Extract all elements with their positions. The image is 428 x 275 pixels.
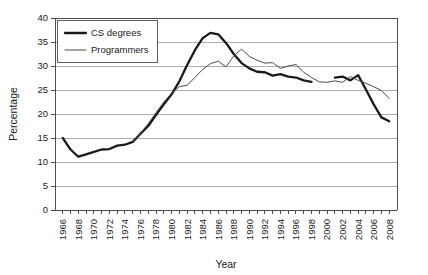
- x-tick-label-1990: 1990: [244, 219, 255, 240]
- y-tick-marks: [51, 18, 55, 210]
- x-tick-label-1986: 1986: [213, 219, 224, 240]
- y-tick-labels: 0510152025303540: [37, 12, 48, 215]
- x-tick-marks: [63, 210, 389, 214]
- x-tick-label-1988: 1988: [228, 219, 239, 240]
- x-tick-label-2000: 2000: [321, 219, 332, 240]
- x-tick-label-2004: 2004: [353, 219, 364, 240]
- x-tick-label-1982: 1982: [182, 219, 193, 240]
- y-tick-label-25: 25: [37, 84, 48, 95]
- legend-box: [57, 20, 157, 62]
- y-tick-label-5: 5: [43, 180, 48, 191]
- x-tick-label-1984: 1984: [197, 219, 208, 240]
- x-tick-label-1998: 1998: [306, 219, 317, 240]
- y-tick-label-20: 20: [37, 108, 48, 119]
- chart-legend: CS degreesProgrammers: [57, 20, 157, 62]
- y-tick-label-35: 35: [37, 36, 48, 47]
- line-chart: 1966196819701972197419761978198019821984…: [0, 0, 428, 275]
- x-tick-label-1976: 1976: [135, 219, 146, 240]
- x-tick-label-1974: 1974: [119, 219, 130, 240]
- x-tick-label-1992: 1992: [259, 219, 270, 240]
- y-axis-title: Percentage: [7, 87, 19, 141]
- x-axis-title: Year: [215, 258, 237, 270]
- y-tick-label-10: 10: [37, 156, 48, 167]
- x-tick-labels: 1966196819701972197419761978198019821984…: [57, 219, 394, 240]
- legend-label-0: CS degrees: [91, 27, 141, 38]
- x-tick-label-1972: 1972: [104, 219, 115, 240]
- x-tick-label-1966: 1966: [57, 219, 68, 240]
- x-tick-label-2008: 2008: [384, 219, 395, 240]
- x-tick-label-1996: 1996: [290, 219, 301, 240]
- x-tick-label-2002: 2002: [337, 219, 348, 240]
- x-tick-label-1978: 1978: [150, 219, 161, 240]
- y-tick-label-30: 30: [37, 60, 48, 71]
- x-tick-label-1970: 1970: [88, 219, 99, 240]
- x-tick-label-1980: 1980: [166, 219, 177, 240]
- x-tick-label-1994: 1994: [275, 219, 286, 240]
- y-tick-label-40: 40: [37, 12, 48, 23]
- x-tick-label-1968: 1968: [73, 219, 84, 240]
- x-tick-label-2006: 2006: [368, 219, 379, 240]
- y-tick-label-0: 0: [43, 204, 48, 215]
- y-tick-label-15: 15: [37, 132, 48, 143]
- chart-figure: 1966196819701972197419761978198019821984…: [0, 0, 428, 275]
- legend-label-1: Programmers: [91, 44, 149, 55]
